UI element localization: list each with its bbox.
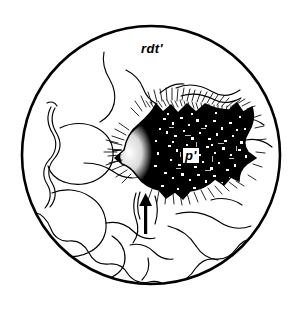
label-p: p': [183, 148, 199, 163]
label-rdt: rdt': [141, 42, 163, 55]
figure-root: rdt' p': [0, 0, 301, 311]
